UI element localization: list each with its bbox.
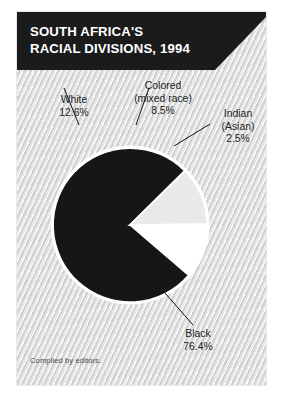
pie-label-colored: Colored (mixed race) 8.5% (121, 80, 205, 118)
source-credit: Compiled by editors. (30, 356, 101, 365)
infographic-figure: SOUTH AFRICA'S RACIAL DIVISIONS, 1994 Wh… (17, 12, 266, 385)
pie-label-indian: Indian (Asian) 2.5% (207, 108, 266, 146)
leader-line-indian (174, 124, 210, 146)
leader-line-black (165, 293, 193, 325)
pie-label-black: Black 76.4% (167, 328, 229, 353)
pie-label-white: White 12.6% (43, 94, 105, 119)
